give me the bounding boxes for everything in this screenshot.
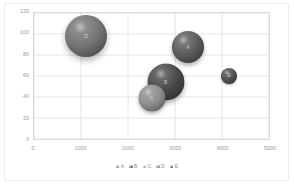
bubble-e: E [221,68,237,84]
legend-label: C [147,164,151,169]
bubble-chart-image: 020406080100120 010002000300040005000 AB… [0,0,294,187]
legend-label: E [175,164,178,169]
legend-item-b[interactable]: B [129,164,137,169]
y-tick-label: 40 [8,95,29,100]
bubble-a: A [172,31,204,63]
chart-legend: ABCDE [0,164,294,169]
legend-marker-icon [170,165,173,168]
y-tick-label: 100 [8,31,29,36]
bubble-label-d: D [84,34,88,39]
x-tick-label: 4000 [217,146,229,151]
legend-item-d[interactable]: D [156,164,165,169]
legend-label: D [161,164,165,169]
legend-marker-icon [143,165,146,168]
bubble-c: C [138,85,165,112]
bubble-label-a: A [186,45,189,50]
y-tick-label: 80 [8,52,29,57]
legend-item-e[interactable]: E [170,164,178,169]
x-tick-label: 5000 [264,146,276,151]
legend-item-c[interactable]: C [143,164,152,169]
y-tick-label: 60 [8,73,29,78]
y-tick-label: 120 [8,9,29,14]
y-tick-label: 20 [8,116,29,121]
legend-label: A [121,164,124,169]
bubble-label-b: B [164,80,167,85]
x-tick-label: 1000 [74,146,86,151]
bubble-label-c: C [150,96,154,101]
legend-marker-icon [129,165,132,168]
y-tick-label: 0 [8,137,29,142]
x-tick-label: 0 [32,146,35,151]
bubble-layer: ABCDE [34,13,271,141]
legend-label: B [134,164,137,169]
plot-area: ABCDE [33,12,270,140]
legend-item-a[interactable]: A [116,164,124,169]
x-tick-label: 2000 [122,146,134,151]
legend-marker-icon [156,165,159,168]
legend-marker-icon [116,165,119,168]
bubble-d: D [65,15,107,57]
bubble-label-e: E [228,73,231,78]
x-tick-label: 3000 [169,146,181,151]
